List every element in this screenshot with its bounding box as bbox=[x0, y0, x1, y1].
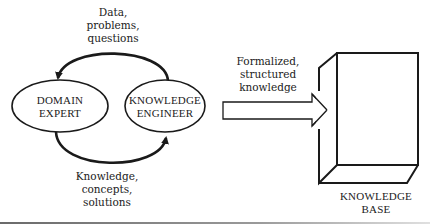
edge-label-knowledge-concepts-solutions: Knowledge, concepts, solutions bbox=[76, 170, 138, 208]
knowledge-engineer-label-2: ENGINEER bbox=[137, 107, 194, 119]
knowledge-acquisition-diagram: DOMAIN EXPERT KNOWLEDGE ENGINEER Data, p… bbox=[0, 0, 430, 224]
edge-label-line: problems, bbox=[86, 19, 139, 31]
edge-label-line: solutions bbox=[83, 196, 131, 208]
edge-label-formalized-structured-knowledge: Formalized, structured knowledge bbox=[237, 55, 300, 93]
knowledge-engineer-label-1: KNOWLEDGE bbox=[129, 94, 201, 106]
knowledge-base-label-1: KNOWLEDGE bbox=[340, 190, 412, 202]
edge-label-line: structured bbox=[240, 68, 296, 80]
domain-expert-label-2: EXPERT bbox=[39, 107, 81, 119]
bottom-rule bbox=[0, 222, 430, 224]
node-knowledge-base: KNOWLEDGE BASE bbox=[312, 53, 418, 215]
node-domain-expert: DOMAIN EXPERT bbox=[12, 80, 108, 132]
knowledge-base-front-face bbox=[337, 53, 418, 165]
edge-label-line: questions bbox=[87, 32, 138, 44]
edge-label-line: Knowledge, bbox=[76, 170, 138, 182]
edge-label-line: knowledge bbox=[239, 81, 297, 93]
knowledge-engineer-ellipse bbox=[125, 80, 205, 132]
edge-label-line: Data, bbox=[99, 6, 128, 18]
edge-label-line: Formalized, bbox=[237, 55, 300, 67]
edge-label-line: concepts, bbox=[82, 183, 133, 195]
arrow-engineer-to-expert bbox=[58, 54, 168, 81]
node-knowledge-engineer: KNOWLEDGE ENGINEER bbox=[125, 80, 205, 132]
edge-label-data-problems-questions: Data, problems, questions bbox=[86, 6, 139, 44]
arrow-expert-to-engineer bbox=[56, 132, 166, 163]
block-arrow-engineer-to-base bbox=[223, 94, 327, 126]
knowledge-base-label-2: BASE bbox=[362, 203, 391, 215]
domain-expert-ellipse bbox=[12, 80, 108, 132]
domain-expert-label-1: DOMAIN bbox=[37, 94, 83, 106]
